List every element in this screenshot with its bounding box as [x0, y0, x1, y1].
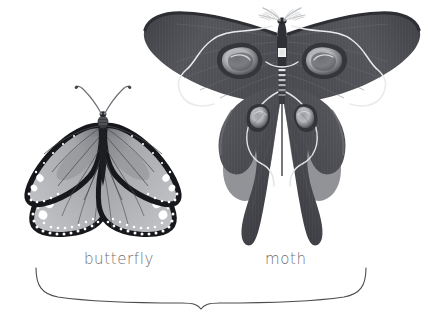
comparison-diagram: butterfly moth: [0, 0, 439, 326]
grouping-brace: [0, 0, 439, 326]
brace-path: [36, 268, 366, 309]
